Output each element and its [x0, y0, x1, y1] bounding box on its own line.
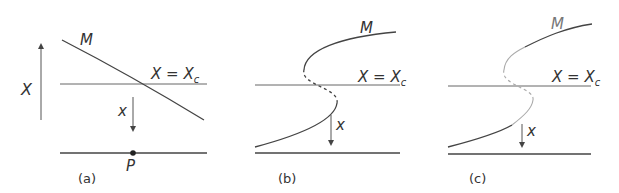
- caption-a: (a): [78, 172, 96, 185]
- arrow-label: x: [118, 104, 127, 119]
- arrow-label: x: [527, 124, 536, 139]
- panel-b: [255, 32, 400, 153]
- curve-m-unstable: [504, 70, 533, 100]
- figure: X M X = Xc x P (a) M X = Xc x (b) M X = …: [0, 0, 619, 193]
- curve-label: M: [360, 21, 373, 36]
- curve-label: M: [80, 33, 93, 48]
- threshold-label: X = Xc: [151, 67, 199, 85]
- curve-m-lower: [448, 125, 512, 147]
- point-label: P: [126, 159, 135, 174]
- panel-c: [448, 24, 592, 154]
- panel-a: [41, 40, 207, 156]
- threshold-label: X = Xc: [552, 70, 600, 88]
- caption-c: (c): [469, 172, 486, 185]
- curve-m-lower: [255, 103, 337, 147]
- curve-m-upper: [304, 32, 396, 70]
- point-p: [130, 150, 136, 156]
- axis-label: X: [21, 82, 32, 98]
- curve-label: M: [551, 17, 564, 32]
- caption-b: (b): [278, 172, 296, 185]
- threshold-label: X = Xc: [358, 70, 406, 88]
- diagram-svg: [0, 0, 619, 193]
- curve-m-upper-light: [504, 47, 525, 70]
- curve-m-unstable: [304, 70, 337, 103]
- arrow-label: x: [336, 118, 345, 133]
